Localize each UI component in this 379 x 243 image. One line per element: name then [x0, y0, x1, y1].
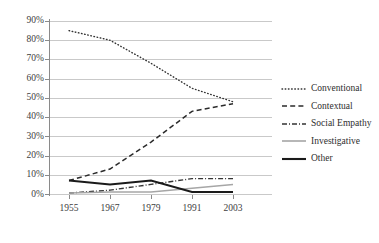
legend-label: Conventional: [307, 83, 362, 94]
legend-key-solid-light-icon: [281, 135, 307, 147]
y-axis-tick-label: 40%: [2, 112, 44, 122]
legend-item-social-empathy: Social Empathy: [281, 115, 379, 133]
legend-item-other: Other: [281, 150, 379, 168]
gridline: [49, 40, 272, 41]
y-axis-labels: 90% 80% 70% 60% 50% 40% 30% 20% 10% 0%: [0, 0, 44, 243]
gridline: [49, 79, 272, 80]
legend-key-dashed-icon: [281, 100, 307, 112]
legend-item-contextual: Contextual: [281, 98, 379, 116]
legend-label: Contextual: [307, 101, 353, 112]
line-chart: 90% 80% 70% 60% 50% 40% 30% 20% 10% 0%: [0, 0, 379, 243]
legend-key-solid-dark-icon: [281, 153, 307, 165]
x-axis-tick: [69, 195, 70, 199]
y-axis-tick-label: 70%: [2, 54, 44, 64]
y-axis-tick-label: 30%: [2, 132, 44, 142]
gridline: [49, 156, 272, 157]
y-axis-tick-label: 20%: [2, 151, 44, 161]
gridline: [49, 117, 272, 118]
gridline: [49, 175, 272, 176]
legend-key-dotted-icon: [281, 83, 307, 95]
gridline: [49, 136, 272, 137]
y-axis-line: [49, 19, 50, 196]
x-axis-tick: [192, 195, 193, 199]
y-axis-tick-label: 60%: [2, 74, 44, 84]
x-axis-tick: [151, 195, 152, 199]
gridline: [49, 98, 272, 99]
x-axis-tick: [233, 195, 234, 199]
legend-item-conventional: Conventional: [281, 80, 379, 98]
legend-label: Other: [307, 153, 333, 164]
gridline: [49, 59, 272, 60]
legend-key-dash-dot-icon: [281, 118, 307, 130]
y-axis-tick-label: 80%: [2, 35, 44, 45]
legend-label: Investigative: [307, 136, 360, 147]
legend-item-investigative: Investigative: [281, 133, 379, 151]
y-axis-tick-label: 10%: [2, 170, 44, 180]
y-axis-tick-label: 90%: [2, 16, 44, 26]
y-axis-tick-label: 0%: [2, 190, 44, 200]
gridline: [49, 21, 272, 22]
legend-label: Social Empathy: [307, 118, 371, 129]
y-axis-tick-label: 50%: [2, 93, 44, 103]
x-axis-tick-label: 2003: [203, 203, 263, 213]
plot-area: [49, 21, 272, 194]
x-axis-tick: [110, 195, 111, 199]
legend: Conventional Contextual Social Empathy I…: [281, 80, 379, 168]
gridline: [49, 194, 272, 195]
